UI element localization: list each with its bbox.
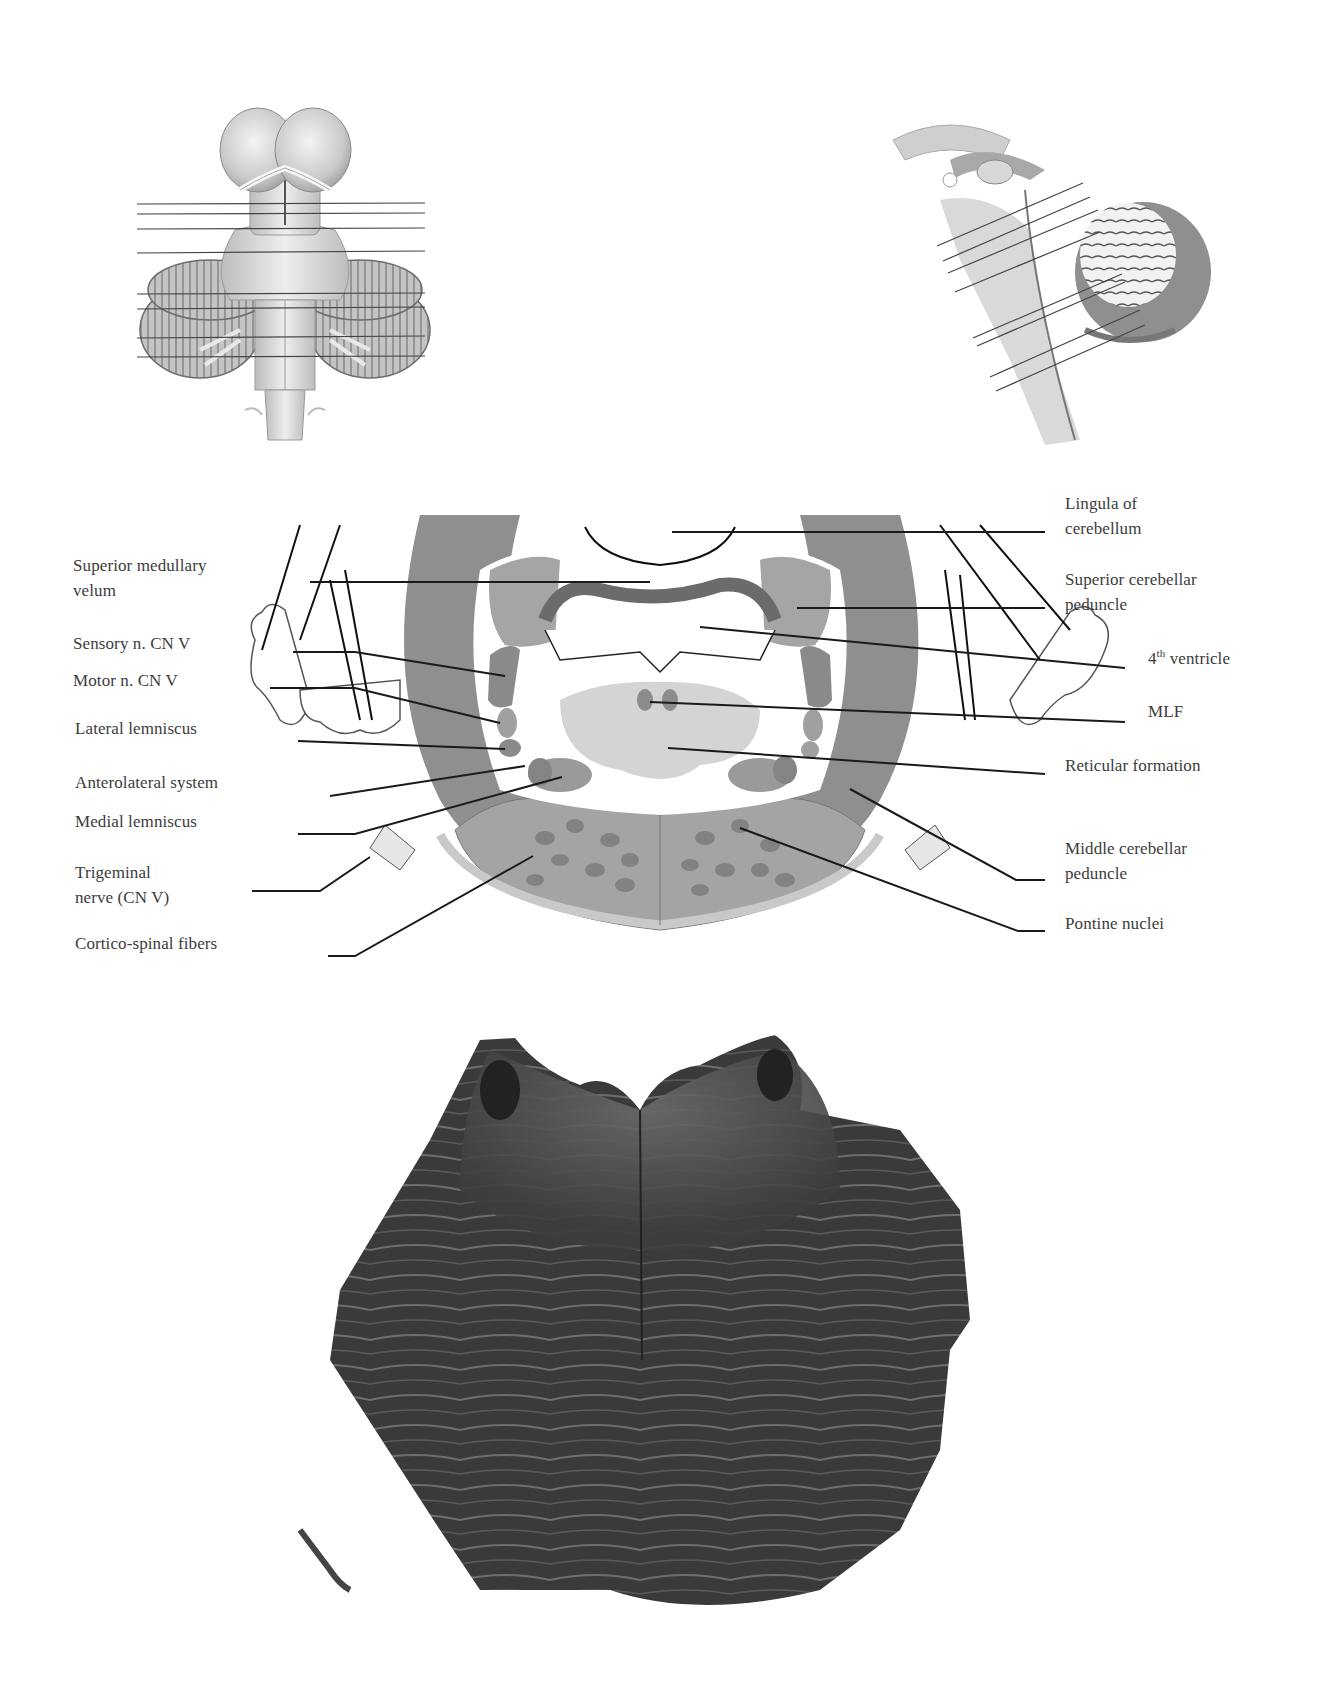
label-medial-lemniscus: Medial lemniscus — [75, 809, 197, 834]
label-pontine-nuclei: Pontine nuclei — [1065, 911, 1164, 936]
histology-image — [280, 1030, 1000, 1650]
pons-histology-section — [280, 1030, 1000, 1650]
label-trigeminal-nerve: Trigeminalnerve (CN V) — [75, 860, 169, 910]
label-lateral-lemniscus: Lateral lemniscus — [75, 716, 197, 741]
label-middle-cerebellar-peduncle: Middle cerebellarpeduncle — [1065, 836, 1187, 886]
label-mlf: MLF — [1148, 699, 1183, 724]
label-motor-nucleus-cn-v: Motor n. CN V — [73, 668, 178, 693]
label-superior-medullary-velum: Superior medullaryvelum — [73, 553, 207, 603]
label-sensory-nucleus-cn-v: Sensory n. CN V — [73, 631, 190, 656]
label-reticular-formation: Reticular formation — [1065, 753, 1201, 778]
section-line — [137, 213, 425, 214]
ventral-brainstem-view — [120, 100, 460, 460]
label-cortico-spinal-fibers: Cortico-spinal fibers — [75, 931, 217, 956]
leader-line-trigeminal-nerve — [252, 857, 370, 891]
section-line — [137, 228, 425, 229]
label-lingula-of-cerebellum: Lingula ofcerebellum — [1065, 491, 1142, 541]
label-superior-cerebellar-peduncle: Superior cerebellarpeduncle — [1065, 567, 1197, 617]
leader-line-middle-cerebellar-peduncle — [850, 789, 1045, 880]
sagittal-brainstem-view — [880, 110, 1220, 460]
label-anterolateral-system: Anterolateral system — [75, 770, 218, 795]
ventral-brainstem-illustration — [120, 100, 460, 460]
label-fourth-ventricle: 4th ventricle — [1148, 646, 1230, 671]
section-line — [137, 203, 425, 204]
sagittal-brainstem-illustration — [880, 110, 1220, 460]
